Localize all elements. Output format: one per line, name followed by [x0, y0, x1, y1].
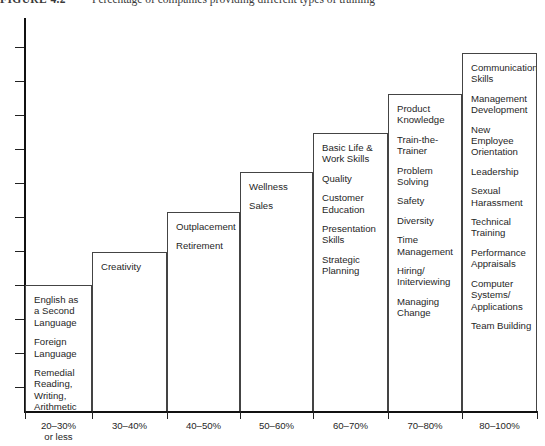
- bar-4: WellnessSales: [240, 172, 313, 411]
- x-axis-tick: [25, 411, 26, 419]
- x-axis-tick: [92, 411, 93, 419]
- bar-chart: English as a Second LanguageForeign Lang…: [0, 0, 545, 446]
- y-axis-tick: [15, 217, 24, 218]
- bar-item: Hiring/ Initerviewing: [397, 265, 461, 288]
- bar-item: Train-the- Trainer: [397, 134, 461, 157]
- x-axis-label: 50–60%: [240, 420, 313, 431]
- bar-item: Management Development: [471, 93, 536, 116]
- y-axis-tick: [15, 387, 24, 388]
- bar-2: Creativity: [92, 252, 167, 411]
- bar-item-list: Communication SkillsManagement Developme…: [463, 54, 536, 331]
- bar-item: Basic Life & Work Skills: [322, 142, 387, 165]
- bar-item: Safety: [397, 195, 461, 206]
- bar-item: Wellness: [249, 181, 312, 192]
- bar-item: Time Management: [397, 234, 461, 257]
- bar-item-list: English as a Second LanguageForeign Lang…: [26, 286, 91, 411]
- y-axis-tick: [15, 183, 24, 184]
- bar-item-list: WellnessSales: [241, 173, 312, 212]
- x-axis-label: 70–80%: [388, 420, 462, 431]
- bar-item-list: Basic Life & Work SkillsQualityCustomer …: [314, 134, 387, 277]
- bar-item: Problem Solving: [397, 165, 461, 188]
- x-axis-tick: [240, 411, 241, 419]
- x-axis-label: 80–100%: [462, 420, 537, 431]
- bar-item: New Employee Orientation: [471, 124, 536, 158]
- bar-item: Product Knowledge: [397, 103, 461, 126]
- bar-item: Foreign Language: [34, 336, 91, 359]
- bar-item: Retirement: [176, 240, 239, 251]
- bar-item-list: OutplacementRetirement: [168, 213, 239, 252]
- y-axis-tick: [15, 285, 24, 286]
- x-axis-label: 20–30% or less: [25, 420, 92, 443]
- bar-6: Product KnowledgeTrain-the- TrainerProbl…: [388, 94, 462, 411]
- bar-item: Communication Skills: [471, 62, 536, 85]
- bar-item: Team Building: [471, 320, 536, 331]
- bar-item: Quality: [322, 173, 387, 184]
- bar-item: Diversity: [397, 215, 461, 226]
- x-axis-line: [24, 411, 537, 413]
- bar-item: Sexual Harassment: [471, 185, 536, 208]
- bar-7: Communication SkillsManagement Developme…: [462, 53, 537, 411]
- bar-1: English as a Second LanguageForeign Lang…: [25, 285, 92, 411]
- bar-item: Performance Appraisals: [471, 247, 536, 270]
- bar-item: Creativity: [101, 261, 166, 272]
- y-axis-tick: [15, 353, 24, 354]
- y-axis-tick: [15, 149, 24, 150]
- x-axis-tick: [537, 411, 538, 419]
- bar-item: Technical Training: [471, 216, 536, 239]
- bar-item: Computer Systems/ Applications: [471, 278, 536, 312]
- bar-item: Managing Change: [397, 296, 461, 319]
- x-axis-label: 30–40%: [92, 420, 167, 431]
- bar-item-list: Creativity: [93, 253, 166, 272]
- bar-item: Leadership: [471, 166, 536, 177]
- bar-item-list: Product KnowledgeTrain-the- TrainerProbl…: [389, 95, 461, 319]
- bar-item: Presentation Skills: [322, 223, 387, 246]
- x-axis-tick: [313, 411, 314, 419]
- y-axis-tick: [15, 251, 24, 252]
- bar-item: Outplacement: [176, 221, 239, 232]
- x-axis-tick: [167, 411, 168, 419]
- x-axis-label: 60–70%: [313, 420, 388, 431]
- y-axis-tick: [15, 81, 24, 82]
- bar-item: Customer Education: [322, 192, 387, 215]
- y-axis-tick: [15, 319, 24, 320]
- x-axis-tick: [388, 411, 389, 419]
- bar-item: English as a Second Language: [34, 294, 91, 328]
- bar-5: Basic Life & Work SkillsQualityCustomer …: [313, 133, 388, 411]
- y-axis-tick: [15, 47, 24, 48]
- bar-item: Strategic Planning: [322, 254, 387, 277]
- bar-3: OutplacementRetirement: [167, 212, 240, 411]
- x-axis-label: 40–50%: [167, 420, 240, 431]
- x-axis-tick: [462, 411, 463, 419]
- y-axis-tick: [15, 115, 24, 116]
- bar-item: Remedial Reading, Writing, Arithmetic: [34, 367, 91, 411]
- bar-item: Sales: [249, 200, 312, 211]
